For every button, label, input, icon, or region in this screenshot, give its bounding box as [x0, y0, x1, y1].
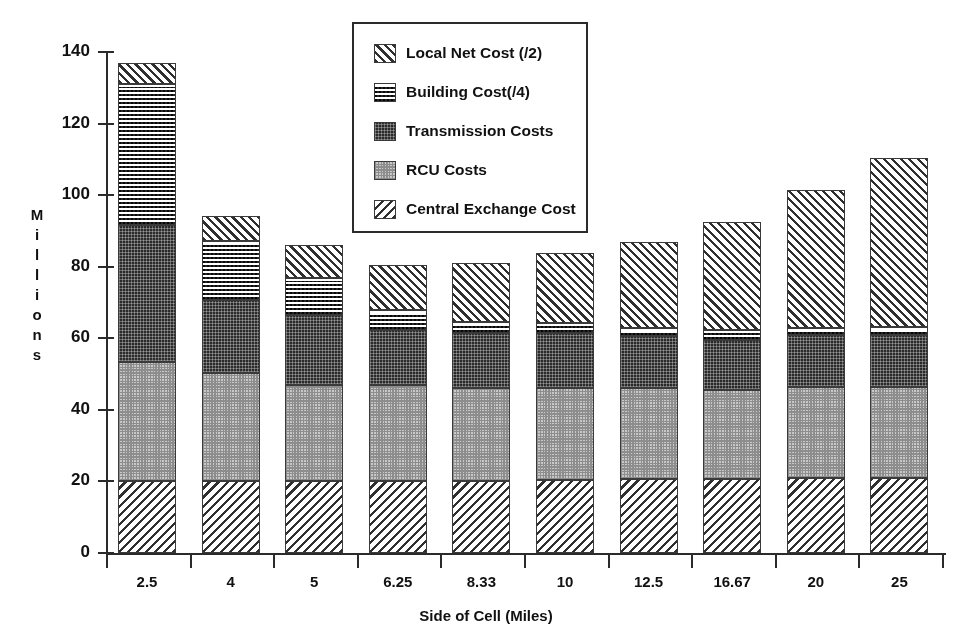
y-tick-label-20: 20 — [38, 470, 90, 490]
y-tick-label-0: 0 — [38, 542, 90, 562]
bar-12.5 — [620, 52, 678, 553]
bar-segment-central-exchange-cost — [452, 481, 510, 553]
y-axis-title-letter-1: i — [24, 225, 50, 245]
y-tick-20 — [98, 480, 114, 482]
y-tick-60 — [98, 337, 114, 339]
bar-segment-building-cost-4 — [118, 84, 176, 225]
legend-label: Building Cost(/4) — [406, 83, 530, 101]
bar-segment-rcu-costs — [536, 388, 594, 480]
bar-segment-central-exchange-cost — [536, 480, 594, 553]
y-axis-title-letter-7: s — [24, 345, 50, 365]
legend-item-rcu-costs[interactable]: RCU Costs — [374, 159, 487, 181]
bar-segment-building-cost-4 — [703, 330, 761, 340]
x-tick-0 — [106, 555, 108, 568]
bar-2.5 — [118, 52, 176, 553]
x-tick-label-3: 6.25 — [356, 573, 440, 590]
bar-4 — [202, 52, 260, 553]
legend-item-building-cost-4[interactable]: Building Cost(/4) — [374, 81, 530, 103]
y-tick-label-140: 140 — [38, 41, 90, 61]
chart-legend: Local Net Cost (/2)Building Cost(/4)Tran… — [352, 22, 588, 233]
y-tick-label-120: 120 — [38, 113, 90, 133]
bar-segment-rcu-costs — [369, 385, 427, 481]
bar-segment-building-cost-4 — [536, 323, 594, 333]
bar-segment-rcu-costs — [118, 362, 176, 482]
x-axis-title: Side of Cell (Miles) — [306, 607, 666, 624]
bar-segment-rcu-costs — [620, 388, 678, 479]
x-tick-label-0: 2.5 — [105, 573, 189, 590]
legend-item-local-net-cost-2[interactable]: Local Net Cost (/2) — [374, 42, 542, 64]
legend-label: Local Net Cost (/2) — [406, 44, 542, 62]
y-tick-140 — [98, 51, 114, 53]
legend-label: Transmission Costs — [406, 122, 553, 140]
bar-segment-building-cost-4 — [870, 327, 928, 335]
x-tick-9 — [858, 555, 860, 568]
bar-segment-rcu-costs — [870, 387, 928, 478]
bar-5 — [285, 52, 343, 553]
bar-segment-transmission-costs — [787, 335, 845, 387]
bar-segment-rcu-costs — [202, 373, 260, 481]
bar-segment-central-exchange-cost — [787, 478, 845, 553]
x-tick-label-4: 8.33 — [439, 573, 523, 590]
x-tick-label-9: 25 — [857, 573, 941, 590]
bar-segment-local-net-cost-2 — [285, 245, 343, 278]
bar-segment-central-exchange-cost — [118, 481, 176, 553]
bar-segment-transmission-costs — [870, 335, 928, 387]
x-tick-2 — [273, 555, 275, 568]
bar-segment-transmission-costs — [369, 330, 427, 385]
bar-segment-local-net-cost-2 — [703, 222, 761, 330]
legend-label: RCU Costs — [406, 161, 487, 179]
bar-segment-local-net-cost-2 — [369, 265, 427, 310]
bar-segment-transmission-costs — [620, 336, 678, 388]
legend-swatch-icon — [374, 200, 396, 219]
bar-segment-building-cost-4 — [620, 328, 678, 336]
x-tick-1 — [190, 555, 192, 568]
bar-segment-rcu-costs — [285, 385, 343, 481]
x-tick-label-5: 10 — [523, 573, 607, 590]
bar-segment-local-net-cost-2 — [536, 253, 594, 323]
x-tick-8 — [775, 555, 777, 568]
bar-segment-building-cost-4 — [202, 241, 260, 300]
bar-25 — [870, 52, 928, 553]
bar-segment-local-net-cost-2 — [620, 242, 678, 328]
bar-segment-central-exchange-cost — [369, 481, 427, 553]
y-axis-title-letter-3: l — [24, 265, 50, 285]
bar-segment-building-cost-4 — [369, 310, 427, 330]
x-tick-5 — [524, 555, 526, 568]
bar-segment-local-net-cost-2 — [118, 63, 176, 84]
bar-segment-transmission-costs — [285, 315, 343, 385]
y-axis-title: Millions — [24, 205, 50, 365]
bar-segment-central-exchange-cost — [202, 481, 260, 553]
x-tick-3 — [357, 555, 359, 568]
stacked-bar-chart: 140120100806040200 2.5456.258.331012.516… — [0, 0, 957, 640]
y-axis-title-letter-4: i — [24, 285, 50, 305]
y-axis-title-letter-6: n — [24, 325, 50, 345]
legend-swatch-icon — [374, 83, 396, 102]
bar-segment-central-exchange-cost — [870, 478, 928, 553]
bar-segment-building-cost-4 — [787, 328, 845, 335]
bar-segment-transmission-costs — [536, 333, 594, 388]
bar-segment-rcu-costs — [787, 387, 845, 478]
legend-swatch-icon — [374, 44, 396, 63]
y-tick-100 — [98, 194, 114, 196]
bar-segment-transmission-costs — [452, 333, 510, 388]
bar-segment-transmission-costs — [202, 300, 260, 373]
y-tick-40 — [98, 409, 114, 411]
x-tick-6 — [608, 555, 610, 568]
y-tick-label-100: 100 — [38, 184, 90, 204]
y-tick-0 — [98, 552, 114, 554]
y-tick-80 — [98, 266, 114, 268]
x-tick-label-7: 16.67 — [690, 573, 774, 590]
x-tick-label-6: 12.5 — [607, 573, 691, 590]
bar-segment-central-exchange-cost — [703, 479, 761, 553]
legend-swatch-icon — [374, 161, 396, 180]
bar-segment-building-cost-4 — [285, 278, 343, 315]
y-axis-title-letter-0: M — [24, 205, 50, 225]
bar-segment-transmission-costs — [703, 340, 761, 390]
bar-20 — [787, 52, 845, 553]
y-axis-title-letter-5: o — [24, 305, 50, 325]
legend-item-transmission-costs[interactable]: Transmission Costs — [374, 120, 553, 142]
legend-swatch-icon — [374, 122, 396, 141]
legend-item-central-exchange-cost[interactable]: Central Exchange Cost — [374, 198, 576, 220]
x-tick-4 — [440, 555, 442, 568]
bar-segment-transmission-costs — [118, 225, 176, 362]
